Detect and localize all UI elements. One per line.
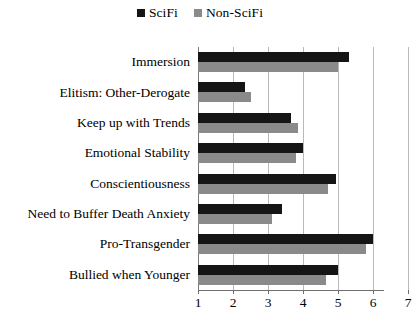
x-tick-label-3: 3 xyxy=(256,296,280,311)
bar-group xyxy=(198,141,383,171)
bar-non-scifi xyxy=(198,184,328,194)
bar-scifi xyxy=(198,204,282,214)
bar-series-container xyxy=(198,47,383,290)
x-tick-4 xyxy=(303,290,304,294)
bar-non-scifi xyxy=(198,62,338,72)
chart-legend: SciFi Non-SciFi xyxy=(0,6,400,20)
legend-label-scifi: SciFi xyxy=(149,6,178,20)
x-tick-3 xyxy=(268,290,269,294)
bar-scifi xyxy=(198,52,349,62)
bar-scifi xyxy=(198,174,336,184)
bar-non-scifi xyxy=(198,123,298,133)
category-label-pro-transgender: Pro-Transgender xyxy=(0,237,194,251)
bar-group xyxy=(198,263,383,293)
bar-non-scifi xyxy=(198,92,251,102)
bar-scifi xyxy=(198,143,303,153)
legend-square-icon xyxy=(194,9,202,17)
category-label-emotional-stability: Emotional Stability xyxy=(0,146,194,160)
bar-scifi xyxy=(198,265,338,275)
x-tick-label-4: 4 xyxy=(291,296,315,311)
x-tick-label-7: 7 xyxy=(396,296,416,311)
bar-group xyxy=(198,50,383,80)
category-axis-labels: ImmersionElitism: Other-DerogateKeep up … xyxy=(0,47,194,290)
bar-scifi xyxy=(198,234,373,244)
bar-group xyxy=(198,111,383,141)
bar-scifi xyxy=(198,113,291,123)
legend-label-non-scifi: Non-SciFi xyxy=(206,6,263,20)
x-axis-line xyxy=(198,290,384,291)
x-tick-6 xyxy=(373,290,374,294)
category-label-elitism-other-derogate: Elitism: Other-Derogate xyxy=(0,86,194,100)
category-label-immersion: Immersion xyxy=(0,55,194,69)
legend-entry-non-scifi: Non-SciFi xyxy=(194,6,263,20)
x-tick-2 xyxy=(233,290,234,294)
x-tick-1 xyxy=(198,290,199,294)
x-tick-label-5: 5 xyxy=(326,296,350,311)
x-axis-tick-labels: 1234567 xyxy=(0,296,400,316)
x-tick-label-2: 2 xyxy=(221,296,245,311)
x-tick-label-6: 6 xyxy=(361,296,385,311)
bar-non-scifi xyxy=(198,214,272,224)
category-label-conscientiousness: Conscientiousness xyxy=(0,177,194,191)
plot-area xyxy=(198,47,383,290)
legend-square-icon xyxy=(137,9,145,17)
bar-group xyxy=(198,172,383,202)
bar-group xyxy=(198,232,383,262)
x-tick-7 xyxy=(408,290,409,294)
x-tick-label-1: 1 xyxy=(186,296,210,311)
gridline-7 xyxy=(408,47,409,290)
bar-non-scifi xyxy=(198,244,366,254)
bar-group xyxy=(198,202,383,232)
bar-group xyxy=(198,80,383,110)
bar-non-scifi xyxy=(198,153,296,163)
x-tick-5 xyxy=(338,290,339,294)
bar-non-scifi xyxy=(198,275,326,285)
legend-entry-scifi: SciFi xyxy=(137,6,178,20)
category-label-bullied-when-younger: Bullied when Younger xyxy=(0,268,194,282)
bar-scifi xyxy=(198,82,245,92)
category-label-need-to-buffer-death-anxiety: Need to Buffer Death Anxiety xyxy=(0,207,194,221)
category-label-keep-up-with-trends: Keep up with Trends xyxy=(0,116,194,130)
